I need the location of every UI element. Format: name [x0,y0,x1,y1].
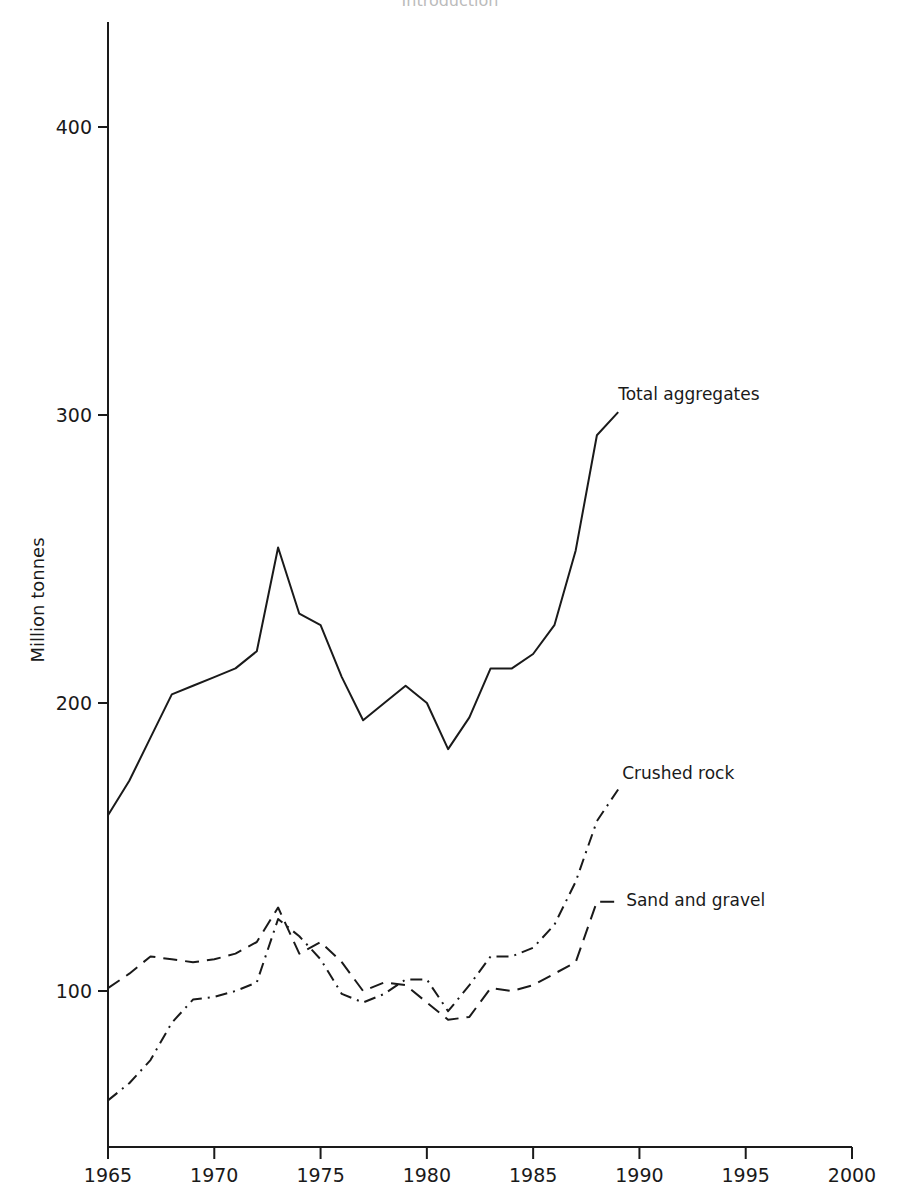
x-tick-label: 1965 [84,1164,132,1186]
y-tick-label: 300 [56,404,92,426]
y-tick-label: 100 [56,980,92,1002]
x-tick-label: 2000 [828,1164,876,1186]
line-chart: Introduction 196519701975198019851990199… [0,0,899,1202]
series-line-sand-and-gravel [108,902,618,1020]
series-label-sand-and-gravel: Sand and gravel [626,890,765,910]
series-label-crushed-rock: Crushed rock [622,763,734,783]
series-label-total-aggregates: Total aggregates [617,384,760,404]
y-tick-label: 200 [56,692,92,714]
x-tick-label: 1975 [296,1164,344,1186]
axis-ticks: 1965197019751980198519901995200010020030… [56,116,876,1186]
x-tick-label: 1990 [615,1164,663,1186]
series-layer [108,412,618,1100]
x-tick-label: 1970 [190,1164,238,1186]
x-tick-label: 1995 [722,1164,770,1186]
series-line-total-aggregates [108,412,618,815]
y-axis-title: Million tonnes [27,537,48,662]
series-labels: Total aggregatesCrushed rockSand and gra… [617,384,765,910]
series-line-crushed-rock [108,789,618,1100]
axes [108,22,852,1155]
page-header-fragment: Introduction [402,0,499,10]
x-tick-label: 1985 [509,1164,557,1186]
x-tick-label: 1980 [403,1164,451,1186]
y-tick-label: 400 [56,116,92,138]
